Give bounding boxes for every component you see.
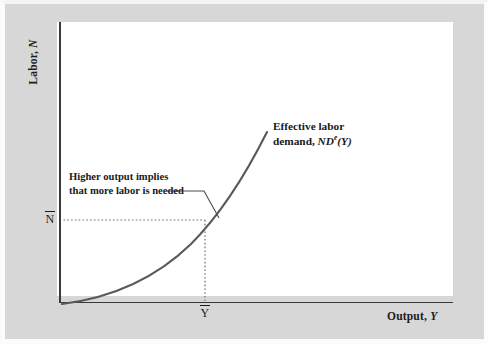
x-axis-title-text: Output,: [387, 310, 430, 322]
annotation-line-2: that more labor is needed: [69, 185, 184, 196]
y-axis-tick-label-nbar: N: [45, 212, 55, 227]
nbar-symbol: N: [45, 212, 55, 226]
annotation-line-1: Higher output implies: [69, 171, 168, 182]
annotation-text: Higher output implies that more labor is…: [69, 170, 184, 197]
effective-labor-demand-curve: [62, 132, 267, 304]
figure-inner: Labor, N Output, Y Effective labor deman…: [5, 4, 484, 339]
curve-label: Effective labor demand, NDe(Y): [273, 119, 352, 148]
curve-label-line-2-prefix: demand,: [273, 135, 318, 147]
x-axis-title-variable: Y: [430, 310, 437, 322]
y-axis-title-text: Labor,: [27, 48, 39, 85]
curve-label-line-1: Effective labor: [273, 120, 344, 132]
curve-label-argument: (Y): [337, 135, 351, 147]
x-axis-tick-label-ybar: Y: [200, 306, 210, 321]
y-axis-title: Labor, N: [27, 25, 39, 99]
x-axis-title: Output, Y: [387, 310, 437, 322]
figure-container: Labor, N Output, Y Effective labor deman…: [0, 0, 488, 344]
ybar-symbol: Y: [200, 306, 210, 320]
y-axis-title-variable: N: [27, 39, 39, 48]
curve-label-symbol: ND: [318, 135, 334, 147]
